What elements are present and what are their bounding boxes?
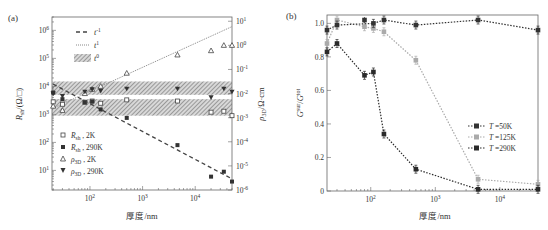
- svg-text:ρ3D , 2K: ρ3D , 2K: [70, 155, 97, 165]
- svg-text:t-1: t-1: [94, 27, 101, 37]
- svg-text:103: 103: [430, 194, 441, 204]
- panel-a-ylabel-left: Rsh/(Ω/□): [14, 88, 25, 122]
- panel-b-ticks: 10210310400.20.40.60.81.0: [315, 19, 531, 204]
- svg-text:ρ3D , 290K: ρ3D , 290K: [70, 167, 104, 177]
- panel-b-ylabel: Gsur/Gtot: [295, 89, 305, 118]
- svg-text:1.0: 1.0: [315, 19, 325, 28]
- svg-text:101: 101: [39, 165, 50, 175]
- panel-a-legend-markers: Rsh , 2K Rsh , 290K ρ3D , 2K ρ3D , 290K: [61, 131, 105, 177]
- panel-b: (b) 10210310400.20.40.60.81.0 T =50K T =…: [286, 11, 540, 221]
- svg-text:0.2: 0.2: [315, 153, 325, 162]
- svg-text:103: 103: [39, 109, 50, 119]
- svg-text:104: 104: [39, 81, 50, 91]
- svg-text:0.4: 0.4: [315, 120, 325, 129]
- svg-text:10-2: 10-2: [236, 89, 248, 99]
- svg-text:10-6: 10-6: [236, 185, 248, 195]
- svg-text:103: 103: [137, 193, 148, 203]
- svg-text:0: 0: [320, 187, 324, 196]
- svg-text:T =50K: T =50K: [489, 122, 513, 131]
- svg-text:T =290K: T =290K: [489, 144, 517, 153]
- svg-text:106: 106: [39, 25, 50, 35]
- panel-a-label: (a): [8, 13, 18, 23]
- svg-text:T =125K: T =125K: [489, 133, 517, 142]
- svg-text:0.6: 0.6: [315, 86, 325, 95]
- svg-text:102: 102: [39, 137, 50, 147]
- panel-a-xlabel: 厚度/nm: [126, 211, 158, 221]
- svg-text:Rsh , 2K: Rsh , 2K: [70, 131, 96, 141]
- panel-b-legend: T =50K T =125K T =290K: [468, 122, 517, 153]
- svg-text:102: 102: [366, 194, 377, 204]
- svg-text:t1: t1: [94, 40, 99, 50]
- svg-text:Rsh , 290K: Rsh , 290K: [70, 143, 103, 153]
- svg-text:105: 105: [39, 53, 50, 63]
- figure: (a) 10210310410110210310410510610-610-51…: [0, 0, 548, 230]
- panel-a: (a) 10210310410110210310410510610-610-51…: [8, 13, 267, 221]
- svg-text:101: 101: [236, 16, 247, 26]
- svg-text:10-1: 10-1: [236, 64, 248, 74]
- panel-a-legend-lines: t-1 t1 t0: [74, 27, 101, 63]
- svg-text:104: 104: [190, 193, 201, 203]
- svg-text:10-5: 10-5: [236, 161, 248, 171]
- svg-text:102: 102: [85, 193, 96, 203]
- svg-text:100: 100: [236, 40, 247, 50]
- panel-b-plot-frame: [327, 15, 538, 191]
- svg-text:0.8: 0.8: [315, 53, 325, 62]
- panel-b-label: (b): [286, 11, 297, 21]
- panel-a-ylabel-right: ρ3D/Ω·cm: [256, 87, 267, 122]
- panel-b-series: [325, 16, 541, 193]
- panel-b-xlabel: 厚度/nm: [419, 211, 451, 221]
- svg-text:t0: t0: [94, 53, 99, 63]
- svg-text:104: 104: [495, 194, 506, 204]
- svg-text:10-3: 10-3: [236, 113, 248, 123]
- svg-text:10-4: 10-4: [236, 137, 248, 147]
